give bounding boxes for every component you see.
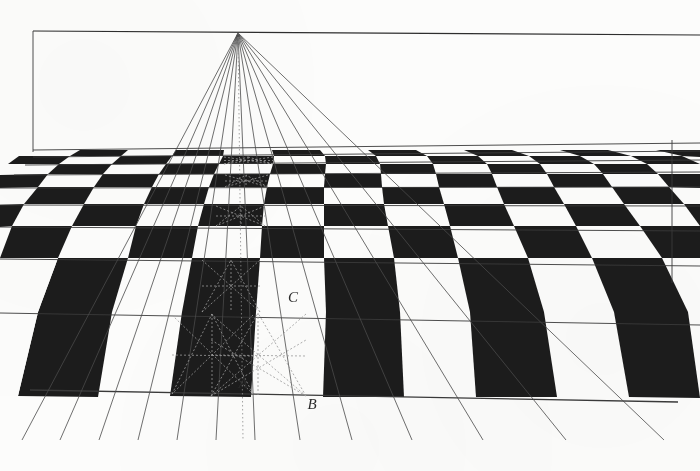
perspective-checkerboard-figure: A B C xyxy=(0,0,700,471)
tile-row-4 xyxy=(0,174,700,188)
label-a: A xyxy=(237,375,248,391)
label-b: B xyxy=(307,396,316,412)
label-c: C xyxy=(288,289,299,305)
figure-root: A B C xyxy=(0,0,700,471)
tile-row-6 xyxy=(0,204,700,227)
